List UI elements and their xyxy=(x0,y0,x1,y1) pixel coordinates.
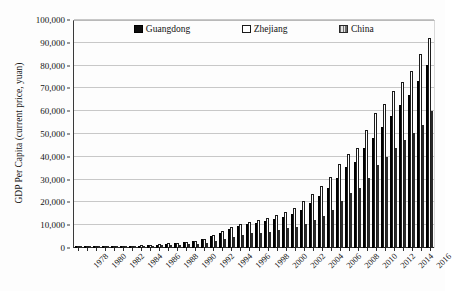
bar-group xyxy=(200,21,209,248)
bar-group xyxy=(299,21,308,248)
bar-china-2008 xyxy=(350,193,353,248)
bar-group xyxy=(263,21,272,248)
y-axis-tick-mark xyxy=(67,225,70,226)
bar-china-2013 xyxy=(395,148,398,248)
x-axis-tick-label: 2002 xyxy=(308,251,327,270)
x-axis-tick-mark xyxy=(78,248,79,251)
bar-china-1981 xyxy=(107,246,110,248)
bar-group xyxy=(110,21,119,248)
bar-group xyxy=(173,21,182,248)
x-axis-tick-mark xyxy=(150,248,151,251)
bar-group xyxy=(101,21,110,248)
bar-china-1986 xyxy=(152,246,155,248)
gridline xyxy=(74,19,434,20)
y-axis-tick-label: 70,000 xyxy=(40,83,65,93)
x-axis-tick-mark xyxy=(331,248,332,251)
x-axis-tick-mark xyxy=(259,248,260,251)
bar-group xyxy=(92,21,101,248)
x-axis-tick-mark xyxy=(213,248,214,251)
bar-group xyxy=(290,21,299,248)
x-axis-tick-mark xyxy=(186,248,187,251)
x-axis-tick-label: 2000 xyxy=(290,251,309,270)
x-axis-tick-mark xyxy=(367,248,368,251)
x-axis-tick-label: 1998 xyxy=(271,251,290,270)
x-axis-tick-label: 1986 xyxy=(163,251,182,270)
bar-china-1984 xyxy=(134,246,137,248)
bar-china-1989 xyxy=(179,245,182,248)
x-axis-tick-mark xyxy=(421,248,422,251)
legend-label: Guangdong xyxy=(146,24,190,34)
y-axis-tick-label: 50,000 xyxy=(40,129,65,139)
x-axis-tick-mark xyxy=(231,248,232,251)
bar-china-1994 xyxy=(224,239,227,248)
x-axis-tick-mark xyxy=(313,248,314,251)
bar-china-2011 xyxy=(377,165,380,248)
x-axis-tick-mark xyxy=(87,248,88,251)
x-axis-tick-mark xyxy=(403,248,404,251)
y-axis-tick-mark xyxy=(67,156,70,157)
y-axis-tick-label: 60,000 xyxy=(40,106,65,116)
bar-group xyxy=(254,21,263,248)
bar-group xyxy=(335,21,344,248)
bar-group xyxy=(218,21,227,248)
legend-swatch-icon xyxy=(242,25,251,34)
bar-china-2017 xyxy=(431,111,434,248)
x-axis-tick-mark xyxy=(114,248,115,251)
bar-group xyxy=(308,21,317,248)
bar-china-1980 xyxy=(98,246,101,248)
x-axis-tick-mark xyxy=(105,248,106,251)
y-axis-tick-mark xyxy=(67,88,70,89)
y-axis-tick-mark xyxy=(67,65,70,66)
x-axis-tick-label: 1982 xyxy=(127,251,146,270)
y-axis-tick-mark xyxy=(67,248,70,249)
bar-china-2002 xyxy=(296,227,299,248)
x-axis-tick-mark xyxy=(240,248,241,251)
x-axis-tick-mark xyxy=(141,248,142,251)
x-axis-tick-mark xyxy=(385,248,386,251)
bar-china-1999 xyxy=(269,232,272,248)
bar-group xyxy=(344,21,353,248)
bar-group xyxy=(209,21,218,248)
bar-group xyxy=(362,21,371,248)
bar-group xyxy=(191,21,200,248)
bar-china-2006 xyxy=(332,210,335,248)
x-axis-tick-label: 1996 xyxy=(253,251,272,270)
x-axis-tick-mark xyxy=(349,248,350,251)
bar-china-1991 xyxy=(197,244,200,248)
bar-group xyxy=(371,21,380,248)
x-axis-tick-label: 1994 xyxy=(235,251,254,270)
x-axis-tick-mark xyxy=(123,248,124,251)
bar-china-2007 xyxy=(341,201,344,248)
bar-group xyxy=(398,21,407,248)
y-axis-tick-mark xyxy=(67,202,70,203)
bar-china-2010 xyxy=(368,178,371,248)
bar-china-2012 xyxy=(386,157,389,248)
x-axis-tick-label: 1980 xyxy=(109,251,128,270)
bar-china-1985 xyxy=(143,246,146,248)
y-axis-tick-label: 100,000 xyxy=(36,15,65,25)
x-axis-tick-label: 2010 xyxy=(380,251,399,270)
bar-group xyxy=(119,21,128,248)
x-axis-tick-mark xyxy=(249,248,250,251)
x-axis-tick-label: 1990 xyxy=(199,251,218,270)
legend-label: Zhejiang xyxy=(254,24,288,34)
y-axis-tick-mark xyxy=(67,111,70,112)
bar-series-container xyxy=(74,21,434,248)
x-axis-tick-label: 2014 xyxy=(416,251,435,270)
x-axis-tick-label: 2008 xyxy=(362,251,381,270)
bar-china-2000 xyxy=(278,230,281,248)
chart-legend: Guangdong Zhejiang China xyxy=(73,21,435,37)
legend-swatch-icon xyxy=(134,25,143,34)
bar-china-1988 xyxy=(170,245,173,248)
x-axis-tick-label: 2004 xyxy=(326,251,345,270)
x-axis-tick-mark xyxy=(358,248,359,251)
bar-china-1983 xyxy=(125,246,128,248)
bar-group xyxy=(146,21,155,248)
bar-group xyxy=(407,21,416,248)
bar-china-1996 xyxy=(242,235,245,248)
bar-china-1993 xyxy=(215,241,218,248)
x-axis-tick-label: 1978 xyxy=(90,251,109,270)
y-axis-tick-label: 20,000 xyxy=(40,197,65,207)
x-axis-tick-labels: 1978198019821984198619881990199219941996… xyxy=(73,249,435,291)
